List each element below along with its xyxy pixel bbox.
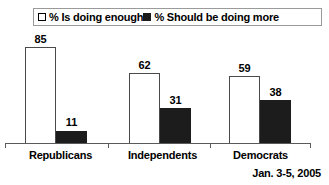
- filled-square-icon: [143, 13, 151, 21]
- bar-value-republicans-should-be-doing-more: 11: [56, 117, 87, 128]
- bar-value-independents-should-be-doing-more: 31: [160, 95, 191, 106]
- axis-tick: [310, 143, 311, 148]
- bar-wrap-republicans-is-doing-enough: 85: [25, 30, 56, 143]
- bar-republicans-should-be-doing-more[interactable]: [56, 131, 87, 143]
- open-square-icon: [38, 13, 46, 21]
- bar-wrap-independents-is-doing-enough: 62: [129, 30, 160, 143]
- category-label-republicans: Republicans: [8, 150, 113, 161]
- legend-entry-should-be-doing-more: % Should be doing more: [143, 9, 279, 25]
- survey-date-annotation: Jan. 3-5, 2005: [252, 168, 321, 179]
- bar-wrap-republicans-should-be-doing-more: 11: [56, 30, 87, 143]
- bar-value-independents-is-doing-enough: 62: [129, 60, 160, 71]
- x-axis-line: [5, 143, 310, 144]
- axis-tick: [210, 143, 211, 148]
- axis-tick: [108, 143, 109, 148]
- bar-independents-is-doing-enough[interactable]: [129, 73, 160, 143]
- category-label-independents: Independents: [110, 150, 215, 161]
- axis-tick: [5, 143, 6, 148]
- bar-democrats-should-be-doing-more[interactable]: [260, 100, 291, 143]
- bar-republicans-is-doing-enough[interactable]: [25, 47, 56, 143]
- bar-wrap-democrats-should-be-doing-more: 38: [260, 30, 291, 143]
- bar-value-democrats-is-doing-enough: 59: [229, 63, 260, 74]
- legend-label-should-be-doing-more: % Should be doing more: [151, 12, 279, 23]
- bar-democrats-is-doing-enough[interactable]: [229, 76, 260, 143]
- legend-entry-is-doing-enough: % Is doing enough: [34, 9, 143, 25]
- chart-plot-area: 85 11 62 31 59: [0, 30, 329, 144]
- chart-legend: % Is doing enough % Should be doing more: [33, 8, 322, 26]
- category-label-democrats: Democrats: [208, 150, 313, 161]
- bar-value-democrats-should-be-doing-more: 38: [260, 87, 291, 98]
- bar-wrap-independents-should-be-doing-more: 31: [160, 30, 191, 143]
- bar-value-republicans-is-doing-enough: 85: [25, 34, 56, 45]
- bar-wrap-democrats-is-doing-enough: 59: [229, 30, 260, 143]
- bar-independents-should-be-doing-more[interactable]: [160, 108, 191, 143]
- legend-label-is-doing-enough: % Is doing enough: [46, 12, 143, 23]
